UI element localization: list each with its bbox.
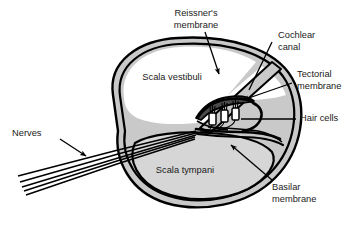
label-basilar-membrane-line1: Basilar <box>272 182 300 192</box>
label-cochlear-canal-line1: Cochlear <box>278 30 315 40</box>
label-tectorial-membrane-line2: membrane <box>297 81 341 91</box>
label-scala-tympani: Scala tympani <box>156 165 214 175</box>
label-nerves: Nerves <box>12 128 42 138</box>
hair-cell <box>209 105 216 125</box>
label-basilar-membrane-line2: membrane <box>272 194 316 204</box>
hair-cell <box>232 100 239 120</box>
label-reissners-membrane-line2: membrane <box>174 20 218 30</box>
label-cochlear-canal-line2: canal <box>278 42 300 52</box>
label-tectorial-membrane-line1: Tectorial <box>297 69 332 79</box>
label-hair-cells: Hair cells <box>300 113 339 123</box>
label-reissners-membrane-line1: Reissner's <box>174 8 217 18</box>
cochlea-diagram: Reissner's membrane Cochlear canal Tecto… <box>0 0 362 228</box>
label-scala-vestibuli: Scala vestibuli <box>142 72 201 82</box>
hair-cell <box>221 102 228 122</box>
leader-nerves <box>60 139 86 156</box>
